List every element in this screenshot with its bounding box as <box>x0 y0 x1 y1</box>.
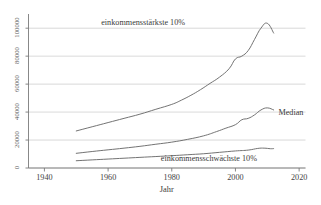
y-tick-label-60000: 60000 <box>13 74 20 94</box>
median-label: Median <box>278 108 303 117</box>
y-tick-label-100000: 100000 <box>13 16 20 40</box>
x-tick-label-1940: 1940 <box>34 173 54 182</box>
y-tick-label-40000: 40000 <box>13 102 20 122</box>
y-tick-label-0: 0 <box>13 166 20 170</box>
y-tick-label-20000: 20000 <box>13 130 20 150</box>
x-tick-label-2000: 2000 <box>225 173 245 182</box>
einkommensschwaechste-label: einkommensschwächste 10% <box>161 154 257 163</box>
x-tick-label-1960: 1960 <box>98 173 118 182</box>
income-distribution-chart: 020000400006000080000100000 194019601980… <box>0 0 321 205</box>
x-axis-title: Jahr <box>160 185 174 194</box>
series-line-1 <box>76 108 273 153</box>
x-tick-label-2020: 2020 <box>289 173 309 182</box>
gridlines-group <box>29 28 306 168</box>
tick-marks-group <box>26 28 300 171</box>
axes-group <box>29 14 306 168</box>
series-line-0 <box>76 23 273 131</box>
einkommensstaerkste-label: einkommensstärkste 10% <box>101 18 185 27</box>
y-tick-label-80000: 80000 <box>13 46 20 66</box>
x-tick-label-1980: 1980 <box>162 173 182 182</box>
